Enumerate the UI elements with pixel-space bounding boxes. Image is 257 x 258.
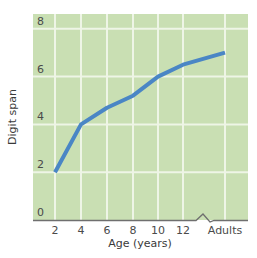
y-tick-label: 0	[37, 206, 44, 219]
x-tick-label: 6	[104, 224, 111, 237]
y-tick-label: 6	[37, 63, 44, 76]
x-tick-label: 2	[52, 224, 59, 237]
x-tick-label: 12	[176, 224, 190, 237]
x-axis-ticks: 24681012Adults	[52, 224, 243, 237]
y-tick-label: 2	[37, 158, 44, 171]
x-tick-label: Adults	[208, 224, 243, 237]
plot-background	[33, 14, 248, 220]
x-axis-label: Age (years)	[108, 237, 172, 250]
y-axis-label: Digit span	[6, 89, 19, 145]
x-tick-label: 4	[78, 224, 85, 237]
line-chart: 02468 24681012Adults Age (years) Digit s…	[0, 0, 257, 258]
y-tick-label: 4	[37, 110, 44, 123]
y-tick-label: 8	[37, 15, 44, 28]
x-tick-label: 8	[130, 224, 137, 237]
x-tick-label: 10	[151, 224, 165, 237]
